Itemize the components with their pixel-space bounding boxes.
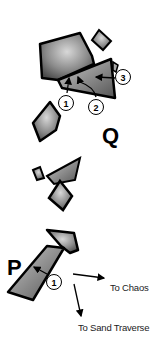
boulder-mid-cluster — [33, 158, 80, 210]
route-marker-q-3: 3 — [115, 69, 131, 85]
area-label-q: Q — [102, 123, 119, 149]
destination-to-chaos: To Chaos — [110, 282, 149, 293]
route-marker-q-1: 1 — [58, 95, 74, 111]
route-marker-q-2: 2 — [88, 99, 104, 115]
route-marker-p-1: 1 — [46, 274, 62, 290]
arrow-to-sand-traverse — [74, 284, 81, 316]
boulder-q-small-top — [92, 30, 111, 50]
area-label-p: P — [7, 255, 22, 281]
topo-drawing — [0, 0, 164, 357]
arrow-to-chaos — [73, 274, 104, 278]
destination-to-sand-traverse: To Sand Traverse — [78, 322, 149, 333]
boulder-q-left — [33, 102, 60, 141]
